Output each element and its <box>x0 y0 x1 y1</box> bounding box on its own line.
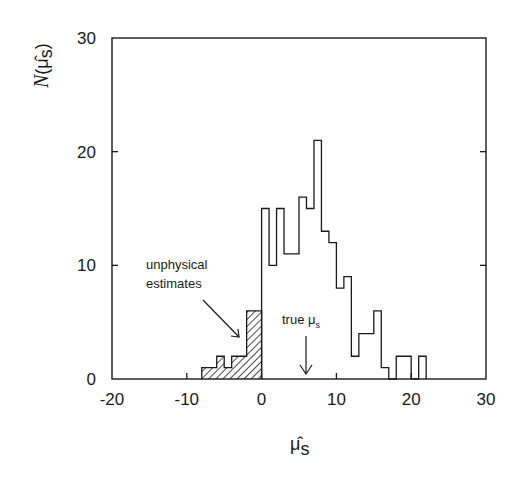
y-tick-label: 10 <box>77 256 96 275</box>
annotation-unphysical-line1: unphysical <box>146 257 208 272</box>
x-tick-label: 0 <box>257 390 266 409</box>
unphysical-histogram-fill <box>202 311 262 379</box>
y-tick-labels: 0102030 <box>77 29 96 389</box>
y-axis-label: N(μ̂s) <box>30 43 56 89</box>
true-mu-arrow-icon <box>300 336 312 374</box>
annotation-unphysical-line2: estimates <box>146 276 202 291</box>
x-tick-label: 20 <box>402 390 421 409</box>
y-tick-label: 0 <box>87 370 96 389</box>
annotation-true-mu: true μs <box>282 312 321 330</box>
x-tick-label: 10 <box>327 390 346 409</box>
unphysical-arrow-icon <box>203 300 239 337</box>
x-tick-label: 30 <box>477 390 496 409</box>
histogram-chart: -20-100102030 0102030 unphysical estimat… <box>0 0 525 483</box>
x-tick-label: -10 <box>175 390 200 409</box>
x-tick-label: -20 <box>100 390 125 409</box>
y-tick-label: 30 <box>77 29 96 48</box>
x-tick-labels: -20-100102030 <box>100 390 496 409</box>
physical-histogram-outline <box>262 140 427 379</box>
x-axis-label: μ̂s <box>290 434 309 459</box>
y-tick-label: 20 <box>77 143 96 162</box>
